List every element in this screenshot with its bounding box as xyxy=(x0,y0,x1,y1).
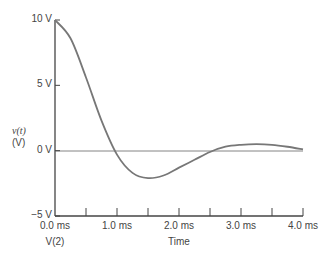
x-label: Time xyxy=(168,236,190,247)
x-tick-label: 4.0 ms xyxy=(288,220,318,231)
series-line xyxy=(55,20,303,178)
x-tick-label: 2.0 ms xyxy=(164,220,194,231)
x-tick-label: 3.0 ms xyxy=(226,220,256,231)
y-tick-label: −5 V xyxy=(8,209,52,220)
y-label-unit: (V) xyxy=(12,137,25,148)
series-label: V(2) xyxy=(46,236,65,247)
y-label: v(t) xyxy=(12,125,26,136)
chart: 10 V5 V0 V−5 V0.0 ms1.0 ms2.0 ms3.0 ms4.… xyxy=(0,0,329,257)
x-tick-label: 1.0 ms xyxy=(102,220,132,231)
y-tick-label: 5 V xyxy=(8,78,52,89)
y-tick-label: 10 V xyxy=(8,13,52,24)
x-tick-label: 0.0 ms xyxy=(40,220,70,231)
